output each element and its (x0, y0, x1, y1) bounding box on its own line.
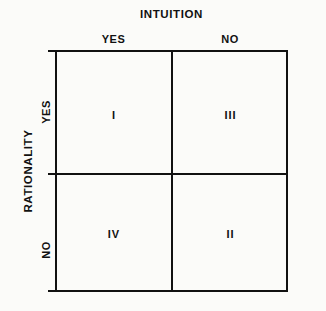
quadrant-bottom-right: II (173, 175, 288, 292)
row-header-rationality-no: NO (40, 190, 53, 310)
quadrant-top-right: III (173, 52, 288, 173)
quadrant-label-top-right: III (224, 109, 236, 121)
quadrant-bottom-left: IV (57, 175, 171, 292)
quadrant-top-left: I (57, 52, 171, 173)
row-header-rationality-yes: YES (40, 52, 53, 172)
left-axis-title: RATIONALITY (22, 50, 35, 292)
quadrant-label-top-left: I (112, 109, 116, 121)
column-header-intuition-no: NO (172, 33, 288, 46)
column-header-intuition-yes: YES (55, 33, 172, 46)
quadrant-label-bottom-left: IV (108, 228, 120, 240)
top-axis-title: INTUITION (55, 8, 288, 21)
quadrant-label-bottom-right: II (226, 228, 234, 240)
rationality-intuition-matrix: INTUITION YES NO RATIONALITY YES NO I II… (0, 0, 326, 311)
